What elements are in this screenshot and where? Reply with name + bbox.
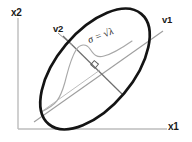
eigenvector-ellipse-diagram: x2 x1 v2 v1 σ = √λ (0, 0, 192, 142)
y-axis-label: x2 (11, 7, 22, 18)
eigenvector-v2-label: v2 (53, 23, 63, 34)
principal-axis-v1-line (34, 31, 163, 122)
x-axis-label: x1 (168, 121, 179, 132)
gaussian-baseline (41, 70, 100, 112)
covariance-ellipse (20, 0, 171, 142)
eigenvector-v1-label: v1 (162, 14, 172, 25)
